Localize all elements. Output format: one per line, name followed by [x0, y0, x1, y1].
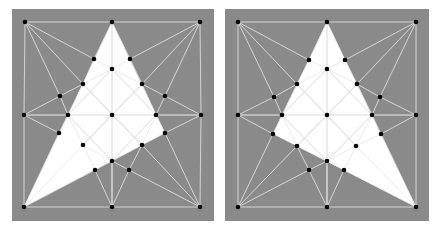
- mesh-point: [58, 94, 63, 99]
- mesh-point: [81, 82, 86, 87]
- mesh-point: [199, 113, 204, 118]
- mesh-point: [414, 20, 419, 25]
- mesh-point: [236, 113, 241, 118]
- mesh-point: [140, 143, 145, 148]
- mesh-point: [92, 57, 97, 62]
- mesh-diagram: [0, 0, 436, 229]
- mesh-point: [354, 144, 359, 149]
- mesh-point: [325, 159, 330, 164]
- mesh-point: [154, 113, 159, 118]
- mesh-point: [343, 58, 348, 63]
- mesh-point: [378, 95, 383, 100]
- mesh-point: [110, 113, 115, 118]
- mesh-point: [198, 20, 203, 25]
- mesh-point: [128, 57, 133, 62]
- left-panel: [12, 9, 214, 221]
- mesh-point: [236, 20, 241, 25]
- mesh-point: [236, 205, 241, 210]
- mesh-point: [110, 205, 115, 210]
- mesh-point: [307, 168, 312, 173]
- mesh-point: [355, 82, 360, 87]
- mesh-point: [140, 82, 145, 87]
- mesh-point: [325, 113, 330, 118]
- mesh-point: [22, 113, 27, 118]
- mesh-point: [163, 131, 168, 136]
- mesh-point: [198, 205, 203, 210]
- mesh-point: [325, 67, 330, 72]
- mesh-point: [272, 95, 277, 100]
- mesh-point: [127, 168, 132, 173]
- mesh-point: [280, 113, 285, 118]
- mesh-point: [379, 132, 384, 137]
- mesh-point: [163, 94, 168, 99]
- mesh-point: [370, 113, 375, 118]
- mesh-point: [271, 132, 276, 137]
- mesh-point: [295, 82, 300, 87]
- right-panel: [225, 9, 429, 221]
- mesh-point: [93, 168, 98, 173]
- mesh-point: [295, 144, 300, 149]
- mesh-point: [342, 168, 347, 173]
- mesh-point: [66, 113, 71, 118]
- mesh-point: [325, 20, 330, 25]
- mesh-point: [307, 58, 312, 63]
- mesh-point: [23, 20, 28, 25]
- mesh-point: [57, 131, 62, 136]
- mesh-point: [110, 67, 115, 72]
- mesh-point: [414, 113, 419, 118]
- mesh-point: [325, 205, 330, 210]
- mesh-point: [81, 143, 86, 148]
- mesh-point: [414, 205, 419, 210]
- mesh-point: [110, 159, 115, 164]
- mesh-point: [110, 20, 115, 25]
- mesh-point: [22, 205, 27, 210]
